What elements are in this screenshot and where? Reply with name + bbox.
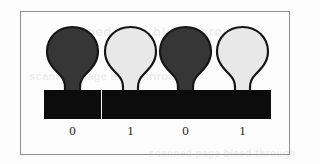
bulb-1-on[interactable]: 1 [101,25,160,141]
bulb-3-on[interactable]: 1 [213,25,272,141]
bulb-glass-icon [43,25,102,95]
bulb-glass-icon [101,25,160,95]
bulb-base [102,90,159,119]
figure-frame: scanned page bleed-through scanned page … [20,11,290,155]
bulb-label-2: 0 [156,123,215,139]
bulb-glass-icon [213,25,272,95]
bulb-2-off[interactable]: 0 [156,25,215,141]
bulb-0-off[interactable]: 0 [43,25,102,141]
bulb-label-0: 0 [43,123,102,139]
bulb-label-1: 1 [101,123,160,139]
bulb-base [44,90,101,119]
bulb-base [157,90,214,119]
bulb-base [214,90,271,119]
bulb-label-3: 1 [213,123,272,139]
bulb-row: 0101 [21,12,291,156]
bulb-glass-icon [156,25,215,95]
